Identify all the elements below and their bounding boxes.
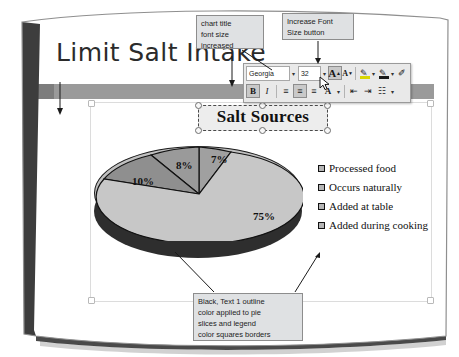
toolbar-separator — [355, 67, 356, 80]
format-painter-icon[interactable]: ✐ — [396, 66, 408, 80]
increase-indent-icon[interactable]: ⇥ — [361, 84, 375, 98]
font-color-icon[interactable]: ✎ — [377, 66, 389, 80]
legend-label: Occurs naturally — [329, 181, 402, 193]
legend-item-added-during-cooking[interactable]: Added during cooking — [318, 219, 430, 231]
slide-design-band-tab — [30, 84, 54, 99]
chart-title-handle-br[interactable] — [324, 127, 331, 134]
pie-slices-svg — [95, 147, 303, 241]
bold-icon[interactable]: B — [246, 84, 260, 98]
pie-chart[interactable]: Salt Sources — [90, 102, 430, 300]
font-color-chevron-down-icon[interactable]: ▾ — [391, 70, 394, 77]
chart-title-handle-tc[interactable] — [259, 102, 266, 109]
legend-item-added-at-table[interactable]: Added at table — [318, 200, 430, 212]
callout-chart-title-font-size: chart title font size increased — [196, 15, 264, 49]
align-center-icon[interactable]: ≡ — [293, 84, 307, 98]
font-size-combobox[interactable]: 32 — [298, 66, 321, 81]
callout-increase-font-size-button: Increase Font Size button — [282, 13, 354, 40]
highlight-swatch — [360, 76, 370, 79]
legend-color-square-icon — [318, 222, 325, 229]
chart-title-handle-tr[interactable] — [324, 102, 331, 109]
scanned-page: Limit Salt Intake Salt Sources — [0, 0, 459, 357]
bullets-chevron-down-icon[interactable]: ▾ — [391, 88, 394, 95]
font-name-chevron-down-icon[interactable]: ▾ — [292, 70, 295, 77]
mini-toolbar[interactable]: Georgia ▾ 32 ▾ A▲ A▼ ✎ ▾ ✎ ▾ ✐ B I ≡ ≡ ≡… — [243, 63, 411, 103]
legend-color-square-icon — [318, 203, 325, 210]
chart-title-handle-bl[interactable] — [195, 127, 202, 134]
decrease-indent-icon[interactable]: ⇤ — [347, 84, 361, 98]
chart-title-handle-tl[interactable] — [195, 102, 202, 109]
legend-item-occurs-naturally[interactable]: Occurs naturally — [318, 181, 430, 193]
pie-label-7: 7% — [211, 153, 228, 165]
legend-item-processed-food[interactable]: Processed food — [318, 162, 430, 174]
pie-label-8: 8% — [176, 159, 193, 171]
mouse-cursor-icon — [319, 76, 331, 92]
chart-title-text: Salt Sources — [199, 107, 327, 127]
clear-formatting-chevron-down-icon[interactable]: ▾ — [337, 88, 340, 95]
highlight-chevron-down-icon[interactable]: ▾ — [372, 70, 375, 77]
bullets-icon[interactable]: ☷ — [375, 84, 389, 98]
legend-label: Processed food — [329, 162, 396, 174]
legend-color-square-icon — [318, 184, 325, 191]
align-left-icon[interactable]: ≡ — [279, 84, 293, 98]
toolbar-separator — [276, 85, 277, 98]
pie-top-face[interactable] — [94, 146, 302, 240]
chart-title-handle-bc[interactable] — [259, 127, 266, 134]
shrink-font-icon[interactable]: A▼ — [342, 66, 354, 80]
callout-black-text-outline: Black, Text 1 outline color applied to p… — [193, 293, 303, 341]
legend-color-square-icon — [318, 165, 325, 172]
pie-label-10: 10% — [132, 175, 154, 187]
legend-label: Added at table — [329, 200, 393, 212]
italic-icon[interactable]: I — [260, 84, 274, 98]
legend-label: Added during cooking — [329, 219, 428, 231]
chart-title-textbox[interactable]: Salt Sources — [198, 105, 328, 131]
pie-label-75: 75% — [253, 210, 275, 222]
text-highlight-color-icon[interactable]: ✎ — [358, 66, 370, 80]
font-color-swatch — [379, 76, 389, 79]
toolbar-separator — [344, 85, 345, 98]
chart-legend[interactable]: Processed food Occurs naturally Added at… — [318, 162, 430, 238]
font-name-combobox[interactable]: Georgia — [246, 66, 290, 81]
pie-graphic[interactable]: 7% 8% 10% 75% — [94, 146, 306, 272]
